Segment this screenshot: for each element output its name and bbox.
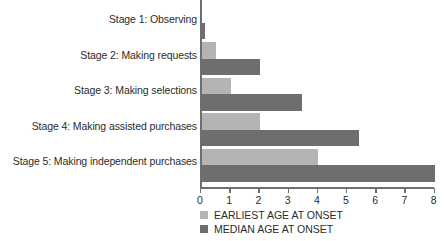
legend-label: MEDIAN AGE AT ONSET — [214, 223, 333, 235]
x-tick-4 — [317, 188, 318, 193]
x-tick-label-2: 2 — [247, 194, 269, 206]
bar-earliest-stage-3 — [202, 78, 231, 95]
bar-median-stage-5 — [202, 165, 436, 182]
bar-median-stage-3 — [202, 94, 303, 111]
x-tick-6 — [375, 188, 376, 193]
x-tick-label-3: 3 — [277, 194, 299, 206]
category-label-stage-1: Stage 1: Observing — [0, 13, 197, 25]
bar-earliest-stage-5 — [202, 149, 319, 166]
bar-earliest-stage-4 — [202, 113, 260, 130]
x-tick-7 — [404, 188, 405, 193]
bar-chart: Stage 1: ObservingStage 2: Making reques… — [0, 0, 445, 241]
bar-earliest-stage-2 — [202, 42, 217, 59]
plot-area: 012345678 — [200, 0, 445, 189]
legend-swatch-icon-earliest — [200, 211, 208, 219]
x-tick-label-8: 8 — [423, 194, 445, 206]
x-tick-5 — [346, 188, 347, 193]
x-tick-label-4: 4 — [306, 194, 328, 206]
x-tick-label-5: 5 — [335, 194, 357, 206]
x-tick-label-1: 1 — [218, 194, 240, 206]
legend-swatch-icon-median — [200, 225, 208, 233]
category-label-stage-3: Stage 3: Making selections — [0, 84, 197, 96]
bar-median-stage-2 — [202, 59, 260, 76]
category-label-stage-5: Stage 5: Making independent purchases — [0, 155, 197, 167]
legend-item-median: MEDIAN AGE AT ONSET — [200, 222, 343, 235]
bar-median-stage-1 — [202, 23, 206, 40]
category-label-stage-2: Stage 2: Making requests — [0, 49, 197, 61]
legend-item-earliest: EARLIEST AGE AT ONSET — [200, 208, 343, 221]
category-axis-labels: Stage 1: ObservingStage 2: Making reques… — [0, 0, 197, 190]
x-tick-3 — [288, 188, 289, 193]
x-tick-label-7: 7 — [393, 194, 415, 206]
x-tick-1 — [229, 188, 230, 193]
legend-label: EARLIEST AGE AT ONSET — [214, 209, 343, 221]
x-tick-label-6: 6 — [364, 194, 386, 206]
chart-legend: EARLIEST AGE AT ONSETMEDIAN AGE AT ONSET — [200, 208, 343, 236]
category-label-stage-4: Stage 4: Making assisted purchases — [0, 120, 197, 132]
x-tick-8 — [434, 188, 435, 193]
x-tick-0 — [200, 188, 201, 193]
bar-median-stage-4 — [202, 130, 360, 147]
x-tick-label-0: 0 — [189, 194, 211, 206]
x-tick-2 — [258, 188, 259, 193]
